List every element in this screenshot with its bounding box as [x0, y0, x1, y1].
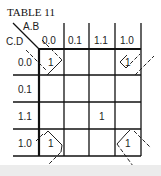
karnaugh-map: TABLE 11 A.B C.D 0.0 0.1 1.1 1.0 0.0 0.1…: [0, 0, 161, 176]
cell-value: 1: [99, 111, 105, 122]
col-variables-label: A.B: [23, 21, 39, 32]
cell-value: 1: [48, 57, 54, 68]
row-header: 1.0: [18, 138, 32, 149]
row-header: 1.1: [18, 111, 32, 122]
table-title: TABLE 11: [7, 6, 55, 18]
col-header: 1.0: [120, 35, 134, 46]
row-variables-label: C.D: [6, 36, 23, 47]
col-header: 0.0: [42, 35, 56, 46]
row-header: 0.1: [18, 84, 32, 95]
cell-value: 1: [125, 138, 131, 149]
corner-grouping-loops: [26, 40, 154, 168]
col-header: 1.1: [94, 35, 108, 46]
cell-value: 1: [48, 138, 54, 149]
footer-bar: [0, 165, 161, 176]
col-header: 0.1: [68, 35, 82, 46]
row-header: 0.0: [18, 57, 32, 68]
